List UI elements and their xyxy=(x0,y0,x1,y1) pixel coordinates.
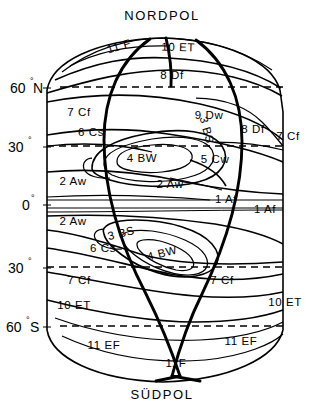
lat-label-60s: 60 ° S xyxy=(6,315,39,335)
meridian-curves xyxy=(104,38,242,381)
zone-label-z-5cw-n: 5 Cw xyxy=(201,153,230,165)
svg-text:30: 30 xyxy=(8,139,24,155)
zone-label-z-10et-sw: 10 ET xyxy=(57,299,91,311)
zone-label-z-6cs-s: 6 Cs xyxy=(90,242,116,254)
zone-label-z-10et-se: 10 ET xyxy=(268,296,302,308)
zone-label-z-1af-c: 1 Af xyxy=(215,193,237,205)
zone-label-z-11f-n: 11 F xyxy=(105,37,132,56)
zone-label-z-7cf-sw: 7 Cf xyxy=(67,274,91,286)
zone-label-z-7cf-ne: 7 Cf xyxy=(276,130,300,142)
zone-label-z-2aw-n: 2 Aw xyxy=(156,178,183,190)
zone-label-z-1af-e: 1 Af xyxy=(254,203,276,215)
zone-labels-north: 11 F10 ET8 Df9 Dw8 Df7 Cf7 Cf6 Cs3 BS4 B… xyxy=(59,37,300,190)
equator-band xyxy=(47,200,283,212)
zone-labels-equatorial: 1 Af1 Af xyxy=(215,193,276,215)
lat-label-30n: 30 ° xyxy=(8,135,32,155)
zone-label-z-4bw-n: 4 BW xyxy=(127,152,158,164)
svg-text:°: ° xyxy=(31,193,35,203)
zone-label-z-10et-n: 10 ET xyxy=(161,40,195,53)
lat-label-30s: 30 ° xyxy=(8,256,32,276)
svg-text:60: 60 xyxy=(10,80,26,96)
zone-label-z-7cf-nw: 7 Cf xyxy=(67,106,91,118)
zone-label-z-7cf-se: 7 Cf xyxy=(210,274,234,286)
svg-text:°: ° xyxy=(28,135,32,145)
north-pole-label: NORDPOL xyxy=(124,8,200,23)
svg-text:0: 0 xyxy=(22,197,30,213)
zone-label-z-11ef-se: 11 EF xyxy=(225,335,258,347)
svg-text:60: 60 xyxy=(6,319,22,335)
south-pole-label: SÜDPOL xyxy=(130,387,193,402)
latitude-axis-labels: 60 ° N 30 ° 0 ° 30 ° 60 ° S xyxy=(6,76,43,335)
climate-zone-schematic: NORDPOL SÜDPOL 60 ° N 30 ° 0 ° 30 ° 60 °… xyxy=(0,0,324,403)
svg-text:S: S xyxy=(30,319,39,335)
zone-label-z-11ef-sw: 11 EF xyxy=(88,339,121,351)
zone-label-z-11f-s: 11F xyxy=(166,357,187,369)
svg-text:N: N xyxy=(33,80,43,96)
lat-label-60n: 60 ° N xyxy=(10,76,43,96)
zone-label-z-4bw-s: 4 BW xyxy=(146,244,179,263)
svg-text:30: 30 xyxy=(8,260,24,276)
lat-label-0: 0 ° xyxy=(22,193,35,213)
svg-text:°: ° xyxy=(28,256,32,266)
zone-label-z-8df-n: 8 Df xyxy=(160,69,184,81)
zone-label-z-6cs-n: 6 Cs xyxy=(78,126,104,138)
zone-label-z-2aw-s: 2 Aw xyxy=(59,215,86,227)
zone-label-z-2aw-nw: 2 Aw xyxy=(59,175,86,187)
zone-label-z-8df-ne: 8 Df xyxy=(241,123,265,135)
